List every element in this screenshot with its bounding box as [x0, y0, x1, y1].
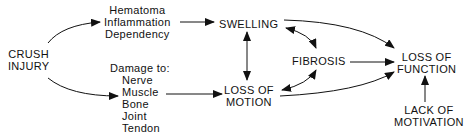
- node-crush-injury: CRUSH INJURY: [8, 48, 49, 72]
- node-loss-of-function: LOSS OF FUNCTION: [397, 51, 456, 75]
- node-label: INJURY: [8, 60, 49, 72]
- damage-item: Muscle: [122, 86, 170, 98]
- edge-crush-to-damage: [48, 78, 118, 96]
- edge-swelling-fibrosis: [286, 28, 316, 48]
- node-hematoma-group: Hematoma Inflammation Dependency: [104, 4, 171, 40]
- node-label: Inflammation: [104, 16, 171, 28]
- damage-item: Joint: [122, 110, 170, 122]
- node-label: Dependency: [104, 28, 171, 40]
- edge-swelling-to-function: [284, 20, 394, 48]
- node-label: MOTION: [224, 96, 274, 108]
- edge-motion-fibrosis: [282, 70, 316, 90]
- node-fibrosis: FIBROSIS: [292, 55, 346, 67]
- node-header: Damage to:: [110, 62, 170, 74]
- node-label: FUNCTION: [397, 63, 456, 75]
- node-swelling: SWELLING: [219, 18, 278, 30]
- damage-item: Bone: [122, 98, 170, 110]
- damage-item: Tendon: [122, 122, 170, 134]
- edge-motion-to-function: [280, 72, 394, 96]
- node-damage-group: Damage to: Nerve Muscle Bone Joint Tendo…: [110, 62, 170, 134]
- node-label: FIBROSIS: [292, 55, 346, 67]
- node-label: MOTIVATION: [394, 116, 464, 128]
- edge-crush-to-hematoma: [48, 22, 100, 43]
- node-label: LOSS OF: [224, 84, 274, 96]
- node-label: SWELLING: [219, 18, 278, 30]
- node-label: CRUSH: [8, 48, 49, 60]
- node-label: LOSS OF: [397, 51, 456, 63]
- node-label: LACK OF: [394, 104, 464, 116]
- damage-item: Nerve: [122, 74, 170, 86]
- node-loss-of-motion: LOSS OF MOTION: [224, 84, 274, 108]
- node-label: Hematoma: [104, 4, 171, 16]
- node-lack-of-motivation: LACK OF MOTIVATION: [394, 104, 464, 128]
